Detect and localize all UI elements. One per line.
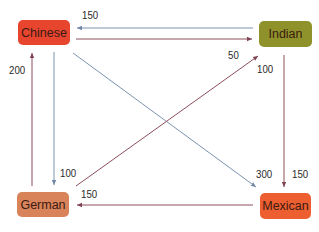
node-german-label: German: [20, 198, 65, 212]
edge-label-chinese-to-mexican: 300: [256, 168, 272, 180]
node-indian-label: Indian: [268, 27, 302, 41]
node-indian: Indian: [259, 21, 312, 47]
edge-label-german-to-chinese: 200: [9, 64, 25, 76]
edge-label-indian-to-mexican: 150: [292, 168, 308, 180]
node-mexican-label: Mexican: [262, 199, 309, 213]
edge-label-mexican-to-german: 150: [81, 188, 97, 200]
edge-label-german-to-indian: 100: [257, 63, 273, 75]
node-chinese: Chinese: [18, 20, 70, 45]
node-german: German: [17, 192, 69, 217]
edge-label-chinese-to-indian: 50: [228, 49, 239, 61]
node-chinese-label: Chinese: [21, 26, 67, 40]
edge-chinese-to-mexican: [73, 53, 256, 187]
edge-label-chinese-to-german: 100: [60, 167, 76, 179]
node-mexican: Mexican: [260, 193, 311, 219]
edge-label-indian-to-chinese: 150: [82, 9, 98, 21]
